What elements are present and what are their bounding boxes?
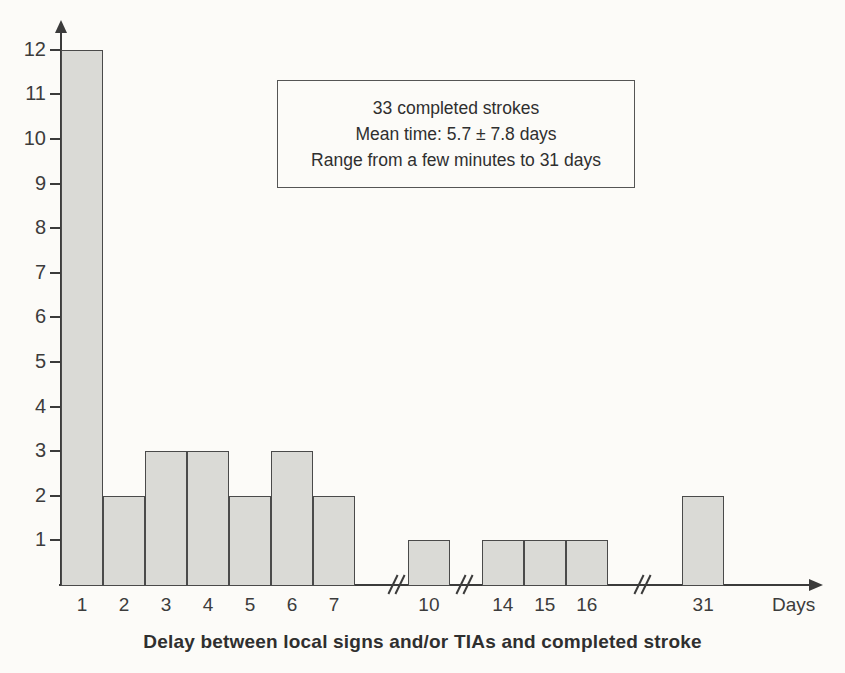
x-tick-label-4: 4 bbox=[186, 594, 230, 616]
y-tick-label-2: 2 bbox=[6, 484, 46, 507]
y-tick-11 bbox=[50, 93, 61, 95]
bar-day-3 bbox=[145, 451, 187, 586]
bar-day-10 bbox=[408, 540, 450, 586]
y-tick-label-6: 6 bbox=[6, 305, 46, 328]
y-tick-label-12: 12 bbox=[6, 38, 46, 61]
y-tick-9 bbox=[50, 183, 61, 185]
bar-day-6 bbox=[271, 451, 313, 586]
annotation-line-mean-time: Mean time: 5.7 ± 7.8 days bbox=[355, 124, 556, 145]
x-tick-label-14: 14 bbox=[481, 594, 525, 616]
y-tick-label-1: 1 bbox=[6, 528, 46, 551]
x-tick-label-7: 7 bbox=[312, 594, 356, 616]
y-tick-7 bbox=[50, 272, 61, 274]
histogram-figure: 33 completed strokes Mean time: 5.7 ± 7.… bbox=[0, 0, 845, 673]
plot-area: 33 completed strokes Mean time: 5.7 ± 7.… bbox=[0, 0, 845, 673]
x-tick-label-1: 1 bbox=[60, 594, 104, 616]
y-tick-8 bbox=[50, 227, 61, 229]
x-tick-label-16: 16 bbox=[565, 594, 609, 616]
annotation-line-range: Range from a few minutes to 31 days bbox=[311, 150, 601, 171]
bar-day-2 bbox=[103, 496, 145, 586]
x-tick-label-15: 15 bbox=[523, 594, 567, 616]
y-tick-10 bbox=[50, 138, 61, 140]
bar-day-7 bbox=[313, 496, 355, 586]
y-tick-1 bbox=[50, 539, 61, 541]
y-tick-label-5: 5 bbox=[6, 350, 46, 373]
x-tick-label-31: 31 bbox=[681, 594, 725, 616]
axis-break-icon bbox=[456, 572, 474, 598]
bar-day-14 bbox=[482, 540, 524, 586]
y-tick-label-3: 3 bbox=[6, 439, 46, 462]
annotation-line-strokes: 33 completed strokes bbox=[373, 98, 539, 119]
bar-day-31 bbox=[682, 496, 724, 586]
y-tick-label-8: 8 bbox=[6, 216, 46, 239]
y-tick-label-4: 4 bbox=[6, 395, 46, 418]
bar-day-16 bbox=[566, 540, 608, 586]
x-tick-label-2: 2 bbox=[102, 594, 146, 616]
y-tick-label-9: 9 bbox=[6, 172, 46, 195]
x-tick-label-3: 3 bbox=[144, 594, 188, 616]
axis-break-icon bbox=[388, 572, 406, 598]
y-tick-12 bbox=[50, 49, 61, 51]
x-tick-label-6: 6 bbox=[270, 594, 314, 616]
y-tick-label-11: 11 bbox=[6, 82, 46, 105]
x-axis-arrow-icon bbox=[809, 579, 823, 591]
y-tick-5 bbox=[50, 361, 61, 363]
bar-day-15 bbox=[524, 540, 566, 586]
axis-break-icon bbox=[634, 572, 652, 598]
x-tick-label-10: 10 bbox=[407, 594, 451, 616]
bar-day-4 bbox=[187, 451, 229, 586]
y-tick-4 bbox=[50, 406, 61, 408]
y-tick-2 bbox=[50, 495, 61, 497]
annotation-box: 33 completed strokes Mean time: 5.7 ± 7.… bbox=[277, 80, 635, 188]
y-tick-label-7: 7 bbox=[6, 261, 46, 284]
x-axis-unit-label: Days bbox=[772, 594, 815, 616]
y-tick-label-10: 10 bbox=[6, 127, 46, 150]
y-axis-arrow-icon bbox=[55, 20, 67, 33]
bar-day-5 bbox=[229, 496, 271, 586]
bar-day-1 bbox=[61, 50, 103, 586]
y-tick-6 bbox=[50, 316, 61, 318]
x-tick-label-5: 5 bbox=[228, 594, 272, 616]
y-tick-3 bbox=[50, 450, 61, 452]
x-axis-title: Delay between local signs and/or TIAs an… bbox=[0, 631, 845, 653]
